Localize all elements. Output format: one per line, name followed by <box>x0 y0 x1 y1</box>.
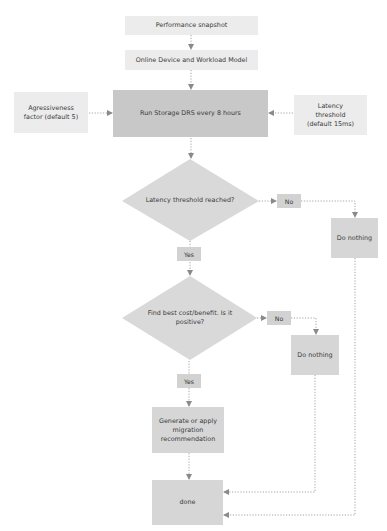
decision-cost-benefit-text: Find best cost/benefit. Is it positive? <box>140 305 240 331</box>
yes-label-box-2: Yes <box>177 374 201 388</box>
run-storage-drs-box: Run Storage DRS every 8 hours <box>113 90 268 137</box>
yes-label-1: Yes <box>184 250 194 259</box>
do-nothing-box-1: Do nothing <box>331 218 378 258</box>
generate-recommendation-label: Generate or apply migration recommendati… <box>158 417 218 444</box>
aggressiveness-factor-label: Agressiveness factor (default 5) <box>22 104 80 122</box>
no-label-1: No <box>285 197 293 206</box>
edge-donothing1-to-done <box>224 258 355 515</box>
do-nothing-label-2: Do nothing <box>297 351 332 360</box>
done-label: done <box>180 498 196 507</box>
performance-snapshot-box: Performance snapshot <box>125 16 258 35</box>
workload-model-label: Online Device and Workload Model <box>136 56 248 65</box>
aggressiveness-factor-box: Agressiveness factor (default 5) <box>14 92 88 133</box>
edge-no2-to-donothing2 <box>291 318 316 334</box>
no-label-box-2: No <box>267 311 291 325</box>
latency-threshold-box: Latency threshold (default 15ms) <box>294 95 367 135</box>
yes-label-2: Yes <box>184 377 194 386</box>
workload-model-box: Online Device and Workload Model <box>125 50 258 70</box>
generate-recommendation-box: Generate or apply migration recommendati… <box>152 407 224 453</box>
done-box: done <box>152 480 223 525</box>
do-nothing-label-1: Do nothing <box>337 234 372 243</box>
performance-snapshot-label: Performance snapshot <box>156 21 228 30</box>
no-label-box-1: No <box>277 194 301 208</box>
no-label-2: No <box>275 314 283 323</box>
do-nothing-box-2: Do nothing <box>291 335 339 375</box>
run-storage-drs-label: Run Storage DRS every 8 hours <box>140 109 241 118</box>
latency-threshold-label: Latency threshold (default 15ms) <box>304 102 357 129</box>
edge-no1-to-donothing1 <box>301 201 355 217</box>
decision-cost-benefit-label: Find best cost/benefit. Is it positive? <box>140 309 240 327</box>
yes-label-box-1: Yes <box>177 247 201 261</box>
decision-latency-text: Latency threshold reached? <box>140 190 240 210</box>
edge-donothing2-to-done <box>224 375 315 492</box>
decision-latency-label: Latency threshold reached? <box>146 196 235 205</box>
